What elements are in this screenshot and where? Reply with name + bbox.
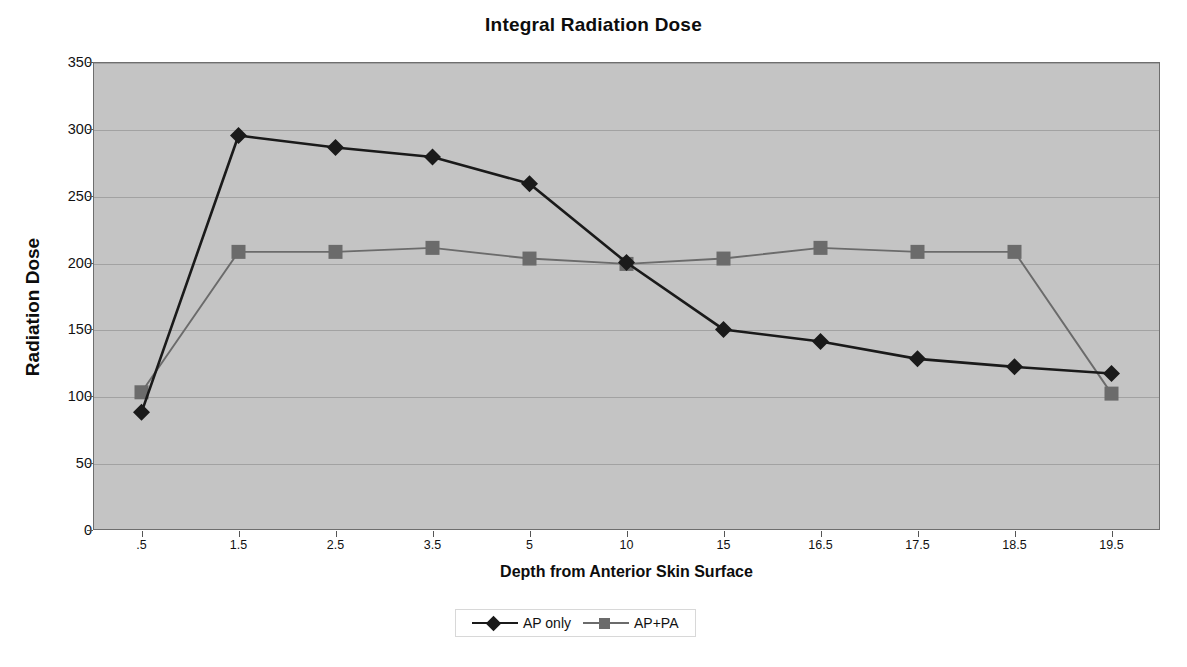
x-axis-tick-label: 17.5 bbox=[883, 538, 953, 552]
data-point-marker bbox=[329, 245, 343, 259]
legend-diamond-marker-icon bbox=[486, 616, 502, 632]
x-axis-tick-label: 1.5 bbox=[204, 538, 274, 552]
legend-swatch bbox=[583, 616, 629, 630]
y-axis-tick-label: 50 bbox=[32, 455, 92, 471]
x-axis-title: Depth from Anterior Skin Surface bbox=[93, 563, 1160, 581]
y-axis-tick-label: 300 bbox=[32, 121, 92, 137]
data-point-marker bbox=[232, 245, 246, 259]
x-axis-tick-label: 3.5 bbox=[398, 538, 468, 552]
data-point-marker bbox=[327, 139, 344, 156]
data-point-marker bbox=[1008, 245, 1022, 259]
y-axis-tick-label: 350 bbox=[32, 54, 92, 70]
x-axis-tick-mark bbox=[627, 531, 628, 537]
y-axis-tick-mark bbox=[87, 530, 93, 531]
x-axis-tick-label: 19.5 bbox=[1077, 538, 1147, 552]
x-axis-tick-mark bbox=[1112, 531, 1113, 537]
chart-title: Integral Radiation Dose bbox=[0, 14, 1187, 36]
data-point-marker bbox=[717, 252, 731, 266]
data-point-marker bbox=[1006, 358, 1023, 375]
data-point-marker bbox=[1103, 365, 1120, 382]
data-point-marker bbox=[230, 127, 247, 144]
y-axis-tick-label: 200 bbox=[32, 255, 92, 271]
legend-swatch bbox=[472, 616, 518, 630]
data-point-marker bbox=[523, 252, 537, 266]
x-axis-tick-mark bbox=[821, 531, 822, 537]
y-axis-tick-label: 0 bbox=[32, 522, 92, 538]
legend-label: AP only bbox=[523, 615, 571, 631]
legend-square-marker-icon bbox=[599, 618, 610, 629]
x-axis-tick-label: 10 bbox=[592, 538, 662, 552]
data-point-marker bbox=[812, 333, 829, 350]
data-point-marker bbox=[909, 350, 926, 367]
x-axis-tick-label: .5 bbox=[107, 538, 177, 552]
x-axis-tick-label: 5 bbox=[495, 538, 565, 552]
data-point-marker bbox=[424, 148, 441, 165]
y-axis-tick-label: 250 bbox=[32, 188, 92, 204]
data-point-marker bbox=[133, 404, 150, 421]
data-point-marker bbox=[715, 321, 732, 338]
legend-entry: AP only bbox=[472, 615, 571, 631]
x-axis-tick-mark bbox=[724, 531, 725, 537]
chart-container: Integral Radiation Dose Radiation Dose D… bbox=[0, 0, 1187, 667]
y-axis-tick-label: 150 bbox=[32, 321, 92, 337]
data-point-marker bbox=[426, 241, 440, 255]
series-line-ap-only bbox=[142, 136, 1112, 413]
legend-label: AP+PA bbox=[634, 615, 679, 631]
x-axis-tick-mark bbox=[336, 531, 337, 537]
y-axis-tick-label: 100 bbox=[32, 388, 92, 404]
x-axis-tick-mark bbox=[239, 531, 240, 537]
data-point-marker bbox=[911, 245, 925, 259]
x-axis-tick-label: 2.5 bbox=[301, 538, 371, 552]
x-axis-tick-mark bbox=[530, 531, 531, 537]
chart-legend: AP onlyAP+PA bbox=[455, 609, 696, 637]
data-series-layer bbox=[93, 62, 1160, 530]
data-point-marker bbox=[1105, 387, 1119, 401]
legend-entry: AP+PA bbox=[583, 615, 679, 631]
x-axis-tick-mark bbox=[918, 531, 919, 537]
x-axis-tick-mark bbox=[142, 531, 143, 537]
data-point-marker bbox=[814, 241, 828, 255]
x-axis-tick-mark bbox=[1015, 531, 1016, 537]
x-axis-tick-label: 15 bbox=[689, 538, 759, 552]
x-axis-tick-label: 18.5 bbox=[980, 538, 1050, 552]
x-axis-tick-mark bbox=[433, 531, 434, 537]
x-axis-tick-label: 16.5 bbox=[786, 538, 856, 552]
